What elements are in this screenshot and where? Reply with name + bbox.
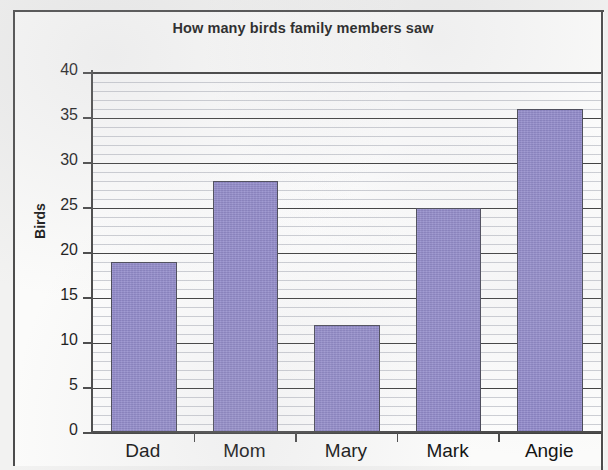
y-tick-mark <box>83 342 92 344</box>
bar-dad <box>111 262 177 433</box>
x-tick-label-mary: Mary <box>295 440 397 462</box>
y-tick-label: 15 <box>38 286 78 304</box>
y-tick-mark <box>83 117 92 119</box>
bar-series <box>93 73 601 433</box>
y-tick-label: 25 <box>38 196 78 214</box>
x-tick-label-angie: Angie <box>498 440 600 462</box>
plot-area <box>92 72 602 433</box>
x-tick-label-mark: Mark <box>397 440 499 462</box>
chart-title: How many birds family members saw <box>13 20 593 36</box>
y-tick-mark <box>83 432 92 434</box>
y-tick-mark <box>83 162 92 164</box>
y-tick-label: 35 <box>38 106 78 124</box>
x-tick-label-mom: Mom <box>194 440 296 462</box>
y-tick-mark <box>83 72 92 74</box>
x-tick-label-dad: Dad <box>92 440 194 462</box>
y-tick-label: 0 <box>38 421 78 439</box>
y-tick-mark <box>83 297 92 299</box>
bar-mark <box>416 208 482 433</box>
y-tick-label: 30 <box>38 151 78 169</box>
y-tick-mark <box>83 252 92 254</box>
y-tick-mark <box>83 387 92 389</box>
chart-screenshot: How many birds family members saw Birds … <box>0 0 608 470</box>
y-tick-label: 5 <box>38 376 78 394</box>
x-axis-line <box>91 431 602 433</box>
y-tick-label: 40 <box>38 61 78 79</box>
bar-angie <box>517 109 583 433</box>
bar-mary <box>314 325 380 433</box>
y-tick-label: 10 <box>38 331 78 349</box>
y-tick-mark <box>83 207 92 209</box>
bar-mom <box>213 181 279 433</box>
y-tick-label: 20 <box>38 241 78 259</box>
